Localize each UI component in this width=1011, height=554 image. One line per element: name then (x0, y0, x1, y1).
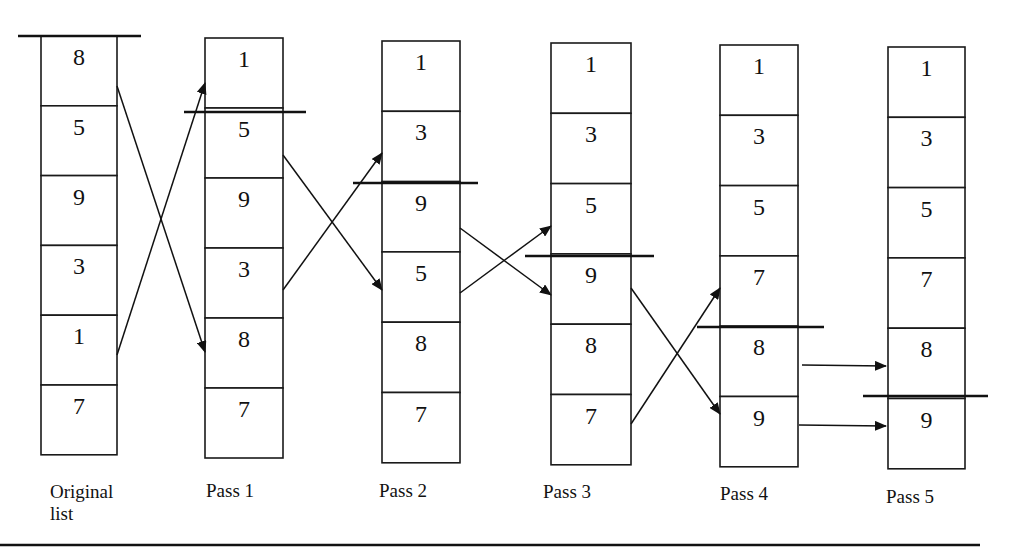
cell-value: 7 (585, 403, 597, 429)
cell-value: 5 (238, 116, 250, 142)
cell: 8 (888, 328, 965, 398)
column-pass5: 135789 (888, 47, 965, 469)
cell-value: 9 (238, 186, 250, 212)
column-pass3: 135987 (551, 43, 631, 465)
cell-value: 8 (238, 326, 250, 352)
cell-value: 8 (585, 332, 597, 358)
cell: 1 (551, 43, 631, 113)
cell: 3 (888, 117, 965, 187)
cell: 8 (551, 324, 631, 394)
column-label-pass1: Pass 1 (206, 480, 254, 501)
cell-value: 1 (753, 53, 765, 79)
cell-value: 7 (238, 396, 250, 422)
cell-value: 5 (753, 194, 765, 220)
cell: 9 (720, 397, 798, 467)
cell: 7 (382, 393, 460, 463)
cell-value: 9 (415, 190, 427, 216)
cell-value: 9 (921, 407, 933, 433)
cell: 9 (205, 178, 283, 248)
cell: 8 (41, 36, 117, 106)
swap-arrow (631, 288, 720, 414)
cell-value: 3 (753, 123, 765, 149)
column-pass4: 135789 (720, 45, 798, 467)
cell-value: 1 (415, 49, 427, 75)
cell-value: 7 (73, 393, 85, 419)
cell: 1 (720, 45, 798, 115)
cell: 7 (888, 258, 965, 328)
cell-value: 3 (238, 256, 250, 282)
cell-value: 8 (753, 334, 765, 360)
cell: 7 (551, 395, 631, 465)
cell-value: 3 (921, 125, 933, 151)
cell-value: 5 (921, 196, 933, 222)
cell: 7 (720, 256, 798, 326)
swap-arrow (460, 226, 551, 293)
column-label-original: list (50, 503, 74, 524)
cell: 3 (205, 248, 283, 318)
cell-value: 3 (415, 119, 427, 145)
cell: 7 (41, 385, 117, 455)
cell: 3 (41, 245, 117, 315)
column-label-pass3: Pass 3 (543, 481, 591, 502)
cell: 5 (888, 188, 965, 258)
cell-value: 5 (73, 114, 85, 140)
cell-value: 1 (238, 46, 250, 72)
cell: 8 (382, 322, 460, 392)
swap-arrow (799, 425, 886, 426)
sorted-boundary-bars (18, 36, 988, 396)
cell-value: 8 (921, 336, 933, 362)
cell-value: 3 (73, 253, 85, 279)
column-pass1: 159387 (205, 38, 283, 458)
cell-value: 5 (585, 192, 597, 218)
columns-layer: 859317159387139587135987135789135789 (41, 36, 965, 469)
swap-arrow (631, 288, 720, 424)
column-pass2: 139587 (382, 41, 460, 463)
column-labels: OriginallistPass 1Pass 2Pass 3Pass 4Pass… (50, 480, 934, 524)
cell: 5 (382, 252, 460, 322)
cell: 3 (382, 111, 460, 181)
cell-value: 8 (415, 330, 427, 356)
cell: 8 (205, 318, 283, 388)
cell: 1 (382, 41, 460, 111)
cell: 1 (205, 38, 283, 108)
selection-sort-diagram: 859317159387139587135987135789135789 Ori… (0, 0, 1011, 554)
cell: 5 (41, 106, 117, 176)
swap-arrow (460, 228, 551, 295)
cell: 5 (551, 184, 631, 254)
column-label-original: Original (50, 481, 113, 502)
column-label-pass2: Pass 2 (379, 480, 427, 501)
cell: 9 (551, 254, 631, 324)
cell: 9 (888, 399, 965, 469)
column-label-pass5: Pass 5 (886, 486, 934, 507)
cell: 3 (551, 113, 631, 183)
cell: 9 (382, 182, 460, 252)
cell: 5 (205, 108, 283, 178)
cell: 1 (888, 47, 965, 117)
cell-value: 8 (73, 44, 85, 70)
cell-value: 9 (753, 405, 765, 431)
cell: 1 (41, 315, 117, 385)
cell: 9 (41, 176, 117, 246)
cell-value: 5 (415, 260, 427, 286)
cell-value: 1 (585, 51, 597, 77)
cell-value: 3 (585, 121, 597, 147)
cell: 8 (720, 326, 798, 396)
cell: 3 (720, 115, 798, 185)
cell-value: 1 (921, 55, 933, 81)
cell: 5 (720, 186, 798, 256)
cell-value: 7 (753, 264, 765, 290)
cell-value: 9 (585, 262, 597, 288)
cell-value: 1 (73, 323, 85, 349)
swap-arrow (802, 365, 886, 366)
column-original: 859317 (41, 36, 117, 455)
cell-value: 9 (73, 184, 85, 210)
cell-value: 7 (921, 266, 933, 292)
cell: 7 (205, 388, 283, 458)
cell-value: 7 (415, 401, 427, 427)
column-label-pass4: Pass 4 (720, 483, 769, 504)
